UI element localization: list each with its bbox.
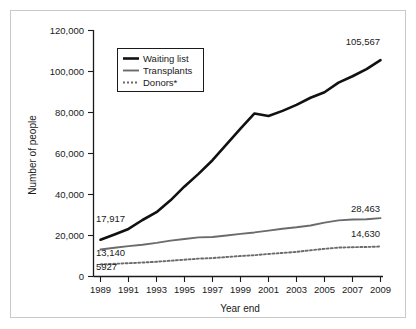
- y-tick-label-20000: 20,000: [55, 230, 84, 241]
- x-tick-marks: [101, 277, 381, 283]
- y-tick-label-120000: 120,000: [50, 25, 84, 36]
- chart-legend: Waiting list Transplants Donors*: [118, 49, 204, 92]
- annotation-transplants-end: 28,463: [351, 203, 380, 214]
- x-tick-label-1999: 1999: [230, 284, 251, 295]
- y-tick-label-40000: 40,000: [55, 189, 84, 200]
- x-tick-label-1991: 1991: [118, 284, 139, 295]
- y-tick-label-80000: 80,000: [55, 107, 84, 118]
- x-tick-label-2005: 2005: [314, 284, 335, 295]
- y-axis-title: Number of people: [27, 115, 38, 195]
- legend-label-donors: Donors*: [143, 77, 178, 88]
- x-tick-label-1993: 1993: [146, 284, 167, 295]
- x-axis-title: Year end: [220, 303, 260, 314]
- series-line-donors: [101, 247, 381, 265]
- annotation-waiting-end: 105,567: [346, 36, 380, 47]
- annotation-donors-end: 14,630: [351, 228, 380, 239]
- annotation-donors-start: 5927: [96, 261, 117, 272]
- x-tick-label-1989: 1989: [90, 284, 111, 295]
- annotation-waiting-start: 17,917: [96, 213, 125, 224]
- x-tick-label-2001: 2001: [258, 284, 279, 295]
- legend-label-transplants: Transplants: [143, 65, 193, 76]
- x-tick-label-1997: 1997: [202, 284, 223, 295]
- y-tick-label-0: 0: [79, 271, 84, 282]
- y-tick-label-100000: 100,000: [50, 66, 84, 77]
- y-tick-marks: [88, 31, 94, 277]
- y-tick-label-60000: 60,000: [55, 148, 84, 159]
- x-tick-label-2007: 2007: [342, 284, 363, 295]
- annotation-transplants-start: 13,140: [96, 247, 125, 258]
- x-tick-label-2009: 2009: [370, 284, 391, 295]
- series-line-transplants: [101, 218, 381, 249]
- x-tick-label-2003: 2003: [286, 284, 307, 295]
- chart-figure: 120,000 100,000 80,000 60,000 40,000 20,…: [0, 0, 416, 329]
- legend-label-waiting-list: Waiting list: [143, 53, 189, 64]
- line-chart: 120,000 100,000 80,000 60,000 40,000 20,…: [0, 0, 416, 329]
- x-tick-label-1995: 1995: [174, 284, 195, 295]
